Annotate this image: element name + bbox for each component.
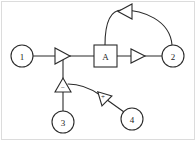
- arrowhead-right-blockA: [131, 49, 145, 63]
- diagram-canvas: − + A 1 2 3 4: [0, 0, 196, 141]
- sign-minus-label: −: [61, 84, 65, 92]
- node-1-label: 1: [20, 52, 25, 62]
- edge-node2-to-blockA-feedback-arc: [105, 10, 172, 45]
- node-3-label: 3: [61, 118, 66, 128]
- page-frame: [2, 2, 195, 140]
- node-4[interactable]: 4: [121, 108, 143, 130]
- sign-plus-label: +: [101, 93, 105, 101]
- arrowhead-left-feedback: [118, 4, 132, 19]
- block-a[interactable]: A: [94, 45, 117, 67]
- diagram-svg: − + A 1 2 3 4: [0, 0, 196, 141]
- node-2[interactable]: 2: [162, 45, 184, 67]
- edge-plus-arrow-to-junction-curve: [68, 84, 100, 95]
- node-3[interactable]: 3: [52, 111, 74, 133]
- node-1[interactable]: 1: [11, 45, 33, 67]
- arrowhead-up-minus: −: [55, 78, 71, 92]
- node-4-label: 4: [130, 115, 135, 125]
- node-2-label: 2: [171, 52, 176, 62]
- block-a-label: A: [102, 52, 109, 62]
